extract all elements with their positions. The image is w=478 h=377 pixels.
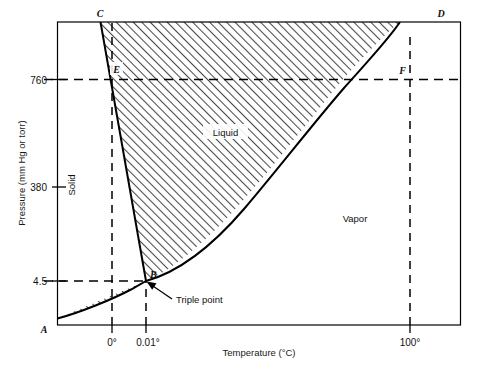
- point-label-e-group: E: [110, 62, 123, 75]
- region-label-vapor: Vapor: [343, 213, 368, 224]
- x-tick-label-0-01deg: 0.01°: [136, 337, 159, 348]
- phase-diagram-figure: 760 380 4.5 0° 0.01° 100° Pressure (mm H…: [0, 0, 478, 377]
- point-label-a: A: [40, 324, 48, 335]
- region-label-liquid-group: Liquid: [203, 124, 248, 139]
- y-axis-title: Pressure (mm Hg or torr): [16, 120, 27, 226]
- x-tick-label-100deg: 100°: [400, 337, 421, 348]
- x-axis-title: Temperature (°C): [223, 347, 296, 358]
- point-label-f: F: [398, 65, 406, 76]
- triple-point-annotation-label: Triple point: [176, 294, 223, 305]
- region-label-liquid: Liquid: [213, 127, 238, 138]
- y-tick-label-760: 760: [30, 75, 47, 86]
- point-label-e: E: [112, 64, 120, 75]
- point-label-f-group: F: [396, 63, 409, 76]
- point-label-c: C: [97, 8, 104, 19]
- point-label-b: B: [149, 269, 157, 280]
- region-label-solid: Solid: [66, 174, 77, 195]
- x-tick-label-0deg: 0°: [107, 337, 117, 348]
- y-tick-label-4-5: 4.5: [33, 276, 47, 287]
- region-label-solid-group: Solid: [66, 162, 82, 208]
- point-label-d: D: [436, 8, 444, 19]
- phase-diagram-svg: 760 380 4.5 0° 0.01° 100° Pressure (mm H…: [0, 0, 478, 377]
- y-tick-label-380: 380: [30, 182, 47, 193]
